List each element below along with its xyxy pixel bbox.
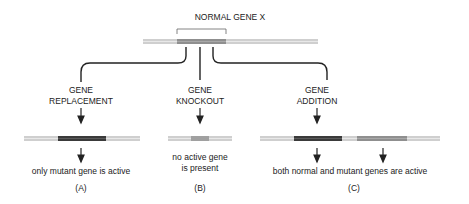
result-b: no active gene is present: [155, 152, 245, 174]
result-c: both normal and mutant genes are active: [250, 166, 450, 177]
panel-c-label: (C): [334, 183, 374, 194]
label-gene-knockout: GENE KNOCKOUT: [160, 85, 240, 107]
branch-line-a: [81, 47, 186, 82]
dna-strand-b: [168, 136, 232, 141]
label-gene-addition: GENE ADDITION: [277, 85, 357, 107]
normal-gene-dna: [143, 39, 318, 44]
result-b-line1: no active gene: [155, 152, 245, 163]
dna-strand-c: [260, 136, 440, 141]
result-a: only mutant gene is active: [11, 166, 151, 177]
label-b-line2: KNOCKOUT: [160, 96, 240, 107]
label-c-line2: ADDITION: [277, 96, 357, 107]
result-b-line2: is present: [155, 163, 245, 174]
panel-a-label: (A): [61, 183, 101, 194]
label-gene-replacement: GENE REPLACEMENT: [31, 85, 131, 107]
diagram-title: NORMAL GENE X: [160, 12, 300, 23]
label-c-line1: GENE: [277, 85, 357, 96]
label-a-line2: REPLACEMENT: [31, 96, 131, 107]
panel-b-label: (B): [180, 183, 220, 194]
label-b-line1: GENE: [160, 85, 240, 96]
label-a-line1: GENE: [31, 85, 131, 96]
gene-bracket: [177, 29, 226, 34]
branch-line-c: [213, 47, 327, 80]
dna-strand-a: [24, 136, 140, 141]
